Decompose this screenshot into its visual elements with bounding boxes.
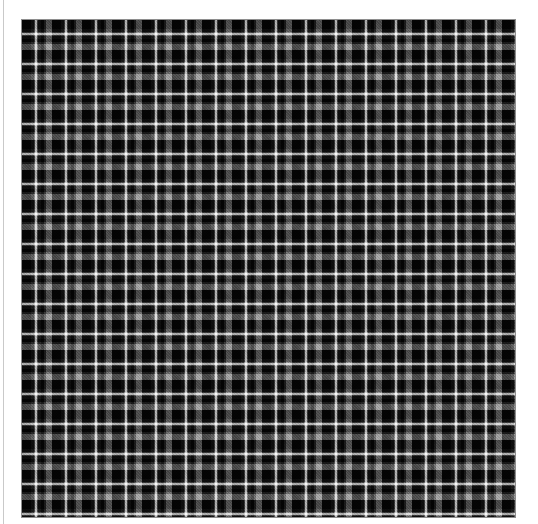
page-title-container: Gunner	[0, 0, 538, 12]
page-title: Gunner	[0, 0, 538, 10]
tartan-swatch	[21, 19, 516, 518]
page-edge-rule	[3, 0, 4, 524]
